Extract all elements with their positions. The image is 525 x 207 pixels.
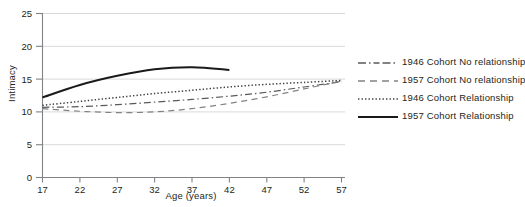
y-tick-label: 20 [21, 41, 32, 52]
legend-item-1946-no-relationship[interactable]: 1946 Cohort No relationship [358, 52, 522, 70]
gridlines [42, 14, 345, 145]
legend-line-sample-dash-dot [358, 55, 398, 67]
y-tick-label: 10 [21, 106, 32, 117]
legend-label: 1957 Cohort No relationship [402, 74, 525, 85]
x-axis-ticks [43, 178, 342, 183]
legend-line-sample-solid [358, 109, 398, 121]
y-tick-label: 25 [21, 8, 32, 19]
series-line-3 [43, 67, 230, 97]
legend-item-1957-no-relationship[interactable]: 1957 Cohort No relationship [358, 70, 522, 88]
series-line-1 [43, 81, 342, 113]
y-axis-label: Intimacy [6, 49, 17, 119]
data-series-layer [43, 67, 342, 112]
y-tick-label: 5 [27, 139, 32, 150]
axis-lines [42, 13, 345, 178]
y-axis-ticks [36, 14, 42, 178]
legend-label: 1946 Cohort No relationship [402, 56, 525, 67]
legend-item-1957-relationship[interactable]: 1957 Cohort Relationship [358, 106, 522, 124]
legend-item-1946-relationship[interactable]: 1946 Cohort Relationship [358, 88, 522, 106]
chart-legend: 1946 Cohort No relationship 1957 Cohort … [358, 52, 522, 124]
series-line-2 [43, 80, 342, 105]
y-tick-label: 15 [21, 74, 32, 85]
legend-label: 1957 Cohort Relationship [402, 110, 514, 121]
series-line-0 [43, 82, 342, 108]
legend-line-sample-dotted [358, 91, 398, 103]
legend-line-sample-dashed [358, 73, 398, 85]
y-tick-labels: 25 20 15 10 5 0 [21, 8, 32, 183]
y-tick-label: 0 [27, 172, 32, 183]
legend-label: 1946 Cohort Relationship [402, 92, 514, 103]
x-axis-label: Age (years) [42, 190, 340, 201]
